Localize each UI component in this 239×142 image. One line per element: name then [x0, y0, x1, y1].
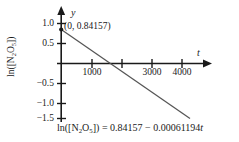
x-axis-arrowhead	[203, 60, 212, 68]
equation-intercept: 0.84157	[110, 122, 143, 133]
y-tick-label-5: −1.0	[16, 99, 54, 109]
equation-variable: t	[200, 122, 203, 133]
y-tick-label-1: 1.0	[16, 19, 54, 29]
y-intercept-marker	[59, 27, 63, 31]
y-intercept-annotation: (0, 0.84157)	[64, 22, 111, 32]
equation-slope: 0.00061194	[153, 122, 200, 133]
y-axis-arrowhead	[57, 6, 65, 15]
y-tick-label-6: −1.5	[16, 114, 54, 124]
x-tick-label-1000: 1000	[70, 68, 114, 78]
y-axis-name: y	[71, 8, 75, 18]
y-tick-label-2: 0.5	[16, 39, 54, 49]
x-tick-label-4000: 4000	[160, 68, 204, 78]
regression-equation-annotation: ln([N2O5]) = 0.84157 − 0.00061194t	[57, 123, 203, 133]
x-axis-name: t	[197, 48, 200, 58]
y-tick-label-4: −0.5	[16, 79, 54, 89]
